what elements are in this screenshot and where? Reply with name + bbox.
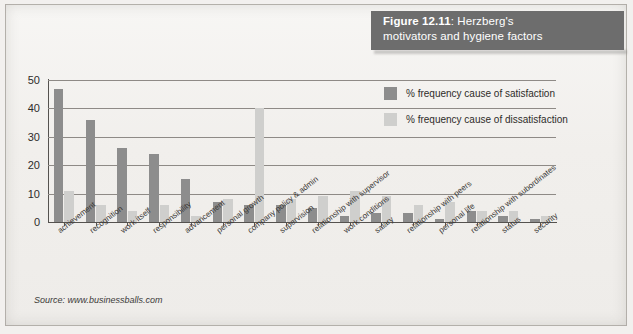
x-axis-labels: achievementrecognitionwork itselfrespons… <box>0 0 633 334</box>
x-tick-11 <box>413 222 414 226</box>
x-tick-3 <box>159 222 160 226</box>
x-tick-10 <box>381 222 382 226</box>
x-axis-label-salary: salary <box>373 215 395 235</box>
x-axis-label-security: security <box>532 211 559 235</box>
x-tick-4 <box>191 222 192 226</box>
chart-plot-area: 01020304050 achievementrecognitionwork i… <box>0 0 633 334</box>
x-tick-9 <box>350 222 351 226</box>
x-tick-6 <box>254 222 255 226</box>
x-tick-0 <box>64 222 65 226</box>
x-tick-5 <box>223 222 224 226</box>
x-axis-label-status: status <box>500 215 522 235</box>
x-tick-2 <box>127 222 128 226</box>
x-tick-12 <box>445 222 446 226</box>
x-tick-8 <box>318 222 319 226</box>
x-tick-1 <box>96 222 97 226</box>
figure-page: Figure 12.11: Herzberg's motivators and … <box>0 0 633 334</box>
x-tick-14 <box>508 222 509 226</box>
source-note: Source: www.businessballs.com <box>34 295 163 305</box>
x-tick-7 <box>286 222 287 226</box>
x-tick-15 <box>540 222 541 226</box>
x-tick-13 <box>477 222 478 226</box>
